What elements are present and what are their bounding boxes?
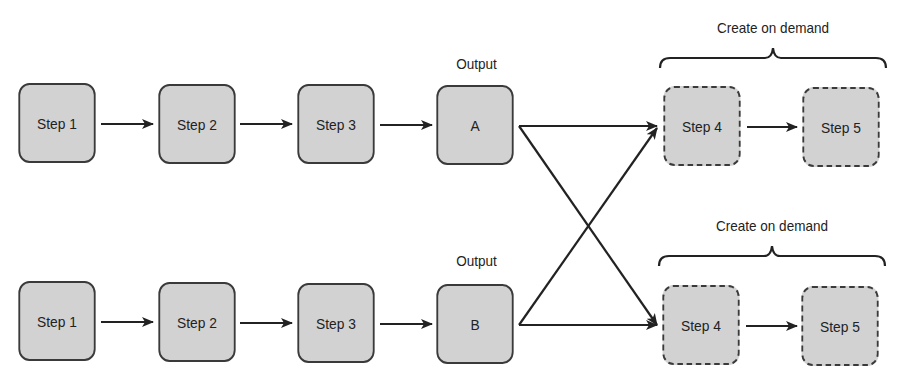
node-top-step-2: Step 2 [158, 84, 235, 164]
brace-top [660, 48, 886, 68]
node-top-step-1: Step 1 [18, 83, 95, 163]
node-top-step-4: Step 4 [663, 86, 740, 166]
node-output-a: A [436, 85, 513, 165]
node-output-b: B [436, 284, 513, 364]
diagram-canvas: Output Output Create on demand Create on… [0, 0, 903, 392]
output-a-caption: Output [437, 55, 515, 72]
output-b-caption: Output [437, 252, 515, 269]
node-bottom-step-4: Step 4 [662, 285, 739, 365]
on-demand-caption-top: Create on demand [692, 19, 854, 36]
node-top-step-5: Step 5 [802, 87, 879, 167]
node-top-step-3: Step 3 [297, 84, 374, 164]
node-bottom-step-1: Step 1 [18, 281, 95, 361]
node-bottom-step-5: Step 5 [801, 286, 878, 366]
node-bottom-step-3: Step 3 [297, 283, 374, 363]
brace-bottom [659, 246, 885, 266]
on-demand-caption-bottom: Create on demand [691, 217, 853, 234]
node-bottom-step-2: Step 2 [158, 282, 235, 362]
